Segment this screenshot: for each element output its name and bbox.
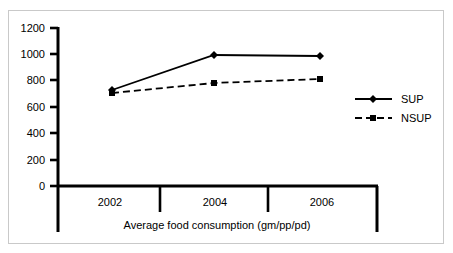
y-tick-label-600: 600 <box>27 101 45 113</box>
y-tick-label-200: 200 <box>27 154 45 166</box>
legend-item-nsup[interactable]: NSUP <box>355 112 432 124</box>
chart-legend: SUP NSUP <box>355 93 432 124</box>
x-axis-group: 2002 2004 2006 Average food consumption … <box>57 186 378 232</box>
legend-item-sup[interactable]: SUP <box>355 93 424 105</box>
legend-label-nsup: NSUP <box>401 112 432 124</box>
y-tick-label-1000: 1000 <box>21 48 45 60</box>
y-axis-group: 1200 1000 800 600 400 200 0 <box>21 22 58 232</box>
y-tick-label-0: 0 <box>39 180 45 192</box>
series-nsup-marker-2006 <box>317 76 323 82</box>
series-nsup-marker-2004 <box>211 80 217 86</box>
series-sup-marker-2004 <box>210 51 218 59</box>
series-sup <box>108 51 324 94</box>
x-category-label-2004: 2004 <box>203 196 227 208</box>
y-tick-label-1200: 1200 <box>21 22 45 34</box>
line-chart-plot: 1200 1000 800 600 400 200 0 2002 2004 20… <box>0 0 453 253</box>
x-category-label-2002: 2002 <box>98 196 122 208</box>
x-axis-title: Average food consumption (gm/pp/pd) <box>124 219 311 231</box>
legend-sup-marker-icon <box>369 95 377 103</box>
x-category-label-2006: 2006 <box>310 196 334 208</box>
y-tick-label-800: 800 <box>27 74 45 86</box>
chart-container: 1200 1000 800 600 400 200 0 2002 2004 20… <box>0 0 453 253</box>
y-tick-label-400: 400 <box>27 127 45 139</box>
series-nsup <box>109 76 323 96</box>
legend-label-sup: SUP <box>401 93 424 105</box>
series-nsup-marker-2002 <box>109 90 115 96</box>
series-sup-marker-2006 <box>316 52 324 60</box>
legend-nsup-marker-icon <box>370 115 376 121</box>
